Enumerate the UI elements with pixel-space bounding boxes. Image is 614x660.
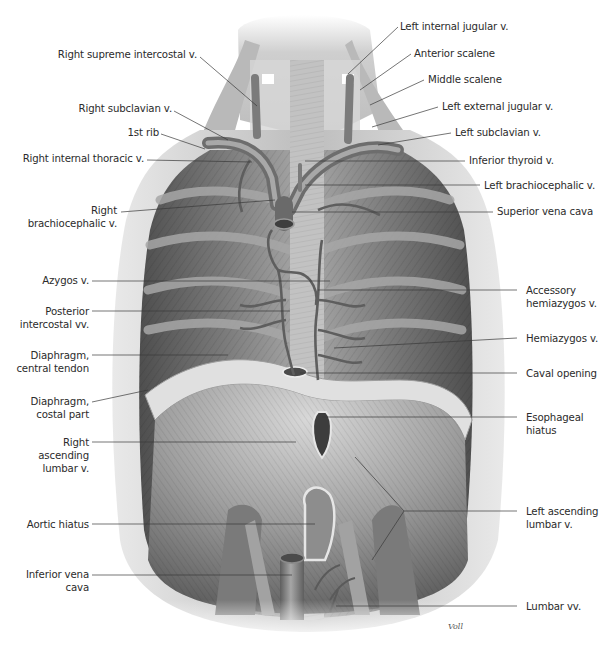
label-lumbar-vv: Lumbar vv.	[526, 600, 581, 613]
label-superior-vena-cava: Superior vena cava	[497, 205, 593, 218]
label-accessory-hemiazygos-v: Accessoryhemiazygos v.	[526, 284, 597, 310]
label-right-brachiocephalic-v: Rightbrachiocephalic v.	[28, 204, 117, 230]
label-left-subclavian-v: Left subclavian v.	[455, 126, 541, 139]
anatomy-figure: Right supreme intercostal v. Right subcl…	[0, 0, 614, 660]
label-esophageal-hiatus: Esophagealhiatus	[526, 411, 583, 437]
label-inferior-vena-cava: Inferior venacava	[26, 568, 89, 594]
label-diaphragm-costal-part: Diaphragm,costal part	[31, 395, 89, 421]
label-hemiazygos-v: Hemiazygos v.	[526, 332, 598, 345]
label-anterior-scalene: Anterior scalene	[414, 47, 495, 60]
left-internal-jugular	[348, 78, 350, 140]
anatomy-illustration	[0, 0, 614, 660]
artist-signature: Voll	[448, 622, 463, 631]
label-left-external-jugular-v: Left external jugular v.	[442, 100, 553, 113]
label-posterior-intercostal-vv: Posteriorintercostal vv.	[20, 305, 89, 331]
right-internal-jugular	[255, 78, 257, 135]
label-right-supreme-intercostal-v: Right supreme intercostal v.	[58, 48, 197, 61]
label-right-internal-thoracic-v: Right internal thoracic v.	[23, 152, 144, 165]
caval-opening-shape	[283, 367, 307, 377]
label-first-rib: 1st rib	[128, 126, 159, 139]
label-middle-scalene: Middle scalene	[428, 73, 502, 86]
label-right-subclavian-v: Right subclavian v.	[79, 102, 172, 115]
label-left-ascending-lumbar-v: Left ascendinglumbar v.	[526, 505, 598, 531]
label-left-internal-jugular-v: Left internal jugular v.	[400, 20, 508, 33]
label-aortic-hiatus: Aortic hiatus	[27, 518, 89, 531]
label-azygos-v: Azygos v.	[42, 274, 89, 287]
label-right-ascending-lumbar-v: Rightascendinglumbar v.	[38, 436, 89, 475]
label-caval-opening: Caval opening	[526, 367, 597, 380]
label-diaphragm-central-tendon: Diaphragm,central tendon	[16, 349, 89, 375]
label-left-brachiocephalic-v: Left brachiocephalic v.	[484, 179, 595, 192]
label-inferior-thyroid-v: Inferior thyroid v.	[469, 154, 554, 167]
